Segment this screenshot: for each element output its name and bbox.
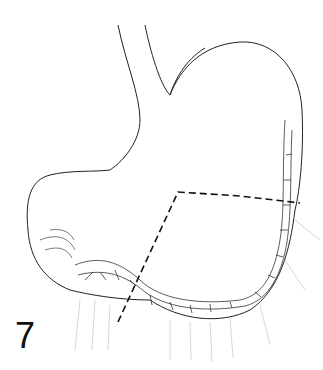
resection-dashed-line [118, 192, 300, 322]
vascular-arcade [75, 120, 292, 313]
omentum-texture [75, 220, 320, 362]
stomach-outline [27, 25, 302, 319]
stomach-illustration [0, 0, 323, 370]
figure-number: 7 [15, 318, 35, 354]
